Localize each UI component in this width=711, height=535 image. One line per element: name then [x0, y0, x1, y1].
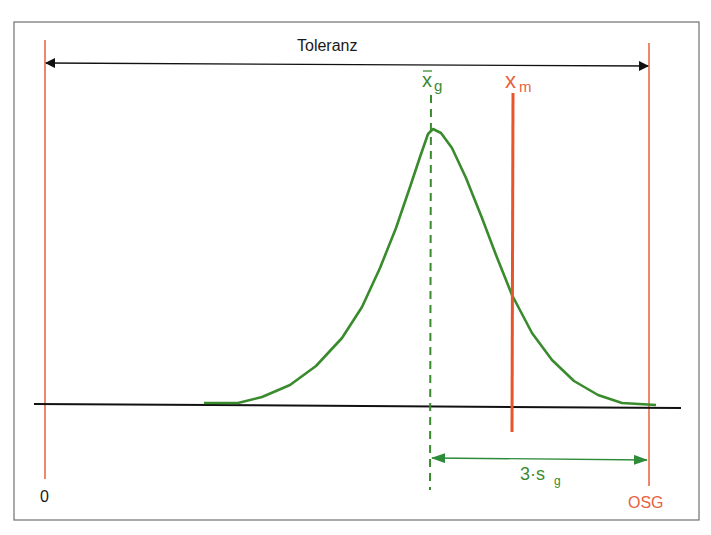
svg-text:3·s: 3·s [520, 464, 545, 484]
baseline-axis [34, 404, 681, 408]
tolerance-arrow [46, 63, 648, 66]
measured-value-label: x m [505, 68, 532, 95]
tolerance-label: Toleranz [297, 37, 357, 54]
diagram-frame [14, 22, 699, 520]
upper-limit-label: OSG [628, 494, 664, 511]
diagram-canvas: Toleranz x g x m 3·s g 0 OSG [0, 0, 711, 535]
spread-label: 3·s g [520, 464, 561, 488]
spread-arrow [432, 458, 647, 460]
svg-text:x: x [422, 69, 432, 91]
mean-line [430, 95, 431, 490]
svg-text:g: g [434, 77, 442, 94]
svg-text:m: m [519, 78, 532, 95]
svg-text:x: x [505, 68, 516, 93]
mean-label: x g [422, 69, 442, 94]
svg-text:g: g [554, 474, 561, 488]
lower-limit-label: 0 [40, 488, 49, 505]
measured-value-line [512, 93, 513, 432]
